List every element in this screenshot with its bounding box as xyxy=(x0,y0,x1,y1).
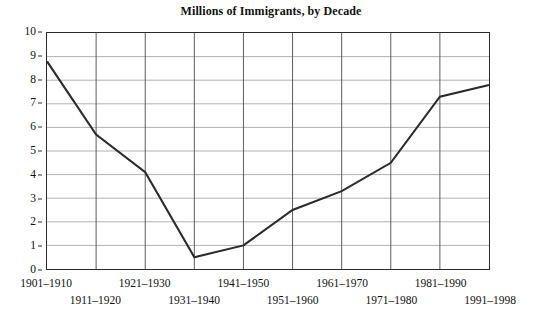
y-tick-mark xyxy=(38,32,42,33)
y-tick-mark xyxy=(38,103,42,104)
x-tick-label: 1941–1950 xyxy=(217,278,269,290)
x-tick-label: 1991–1998 xyxy=(464,295,516,307)
y-tick-label: 7 xyxy=(30,98,36,110)
y-tick-mark xyxy=(38,127,42,128)
y-axis: 012345678910 xyxy=(0,32,42,270)
y-tick-label: 1 xyxy=(30,240,36,252)
y-tick-label: 10 xyxy=(25,26,37,38)
plot-area xyxy=(46,32,490,270)
y-tick-mark xyxy=(38,79,42,80)
x-tick-label: 1921–1930 xyxy=(119,278,171,290)
y-tick-label: 9 xyxy=(30,50,36,62)
x-tick-label: 1961–1970 xyxy=(316,278,368,290)
x-tick-label: 1971–1980 xyxy=(365,295,417,307)
y-tick-label: 4 xyxy=(30,169,36,181)
chart-page: Millions of Immigrants, by Decade 012345… xyxy=(0,0,542,317)
y-tick-label: 8 xyxy=(30,74,36,86)
chart-title: Millions of Immigrants, by Decade xyxy=(0,4,542,19)
immigrants-line xyxy=(47,61,489,257)
y-tick-mark xyxy=(38,55,42,56)
y-tick-mark xyxy=(38,222,42,223)
y-tick-mark xyxy=(38,151,42,152)
x-tick-label: 1911–1920 xyxy=(70,295,121,307)
x-tick-label: 1901–1910 xyxy=(20,278,72,290)
y-tick-label: 2 xyxy=(30,217,36,229)
x-tick-label: 1951–1960 xyxy=(267,295,319,307)
data-series-layer xyxy=(47,33,489,269)
x-tick-label: 1931–1940 xyxy=(168,295,220,307)
x-tick-label: 1981–1990 xyxy=(415,278,467,290)
y-tick-mark xyxy=(38,174,42,175)
y-tick-label: 5 xyxy=(30,145,36,157)
y-tick-label: 6 xyxy=(30,121,36,133)
y-tick-mark xyxy=(38,246,42,247)
y-tick-label: 3 xyxy=(30,193,36,205)
x-axis: 1901–19101911–19201921–19301931–19401941… xyxy=(0,270,542,317)
y-tick-mark xyxy=(38,198,42,199)
